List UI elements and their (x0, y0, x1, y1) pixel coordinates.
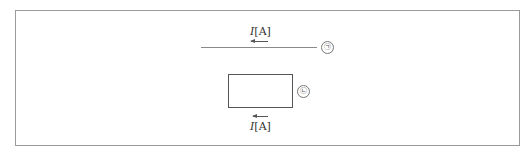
current-unit: [A] (254, 120, 271, 133)
bottom-current-label: I[A] (250, 120, 271, 133)
current-unit: [A] (254, 25, 271, 38)
bottom-current-arrow-icon (253, 116, 268, 117)
wire-marker: ㉠ (321, 41, 334, 54)
straight-wire (201, 47, 317, 48)
top-current-arrow-icon (251, 41, 268, 42)
top-current-label: I[A] (250, 25, 271, 38)
rectangular-loop (228, 74, 293, 108)
loop-marker: ㉡ (297, 85, 310, 98)
